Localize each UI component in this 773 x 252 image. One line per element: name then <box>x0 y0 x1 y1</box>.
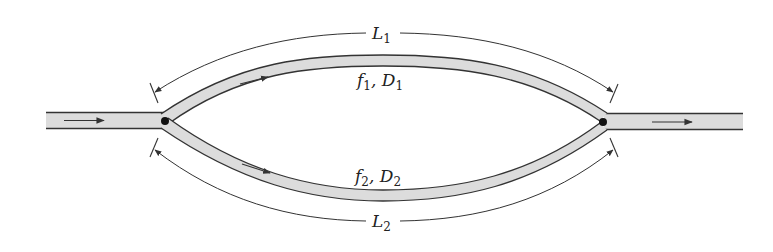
label-L1: L1 <box>371 23 391 46</box>
junction-right <box>599 118 607 126</box>
outlet-pipe <box>604 113 743 130</box>
inlet-pipe <box>46 112 164 129</box>
parallel-pipe-diagram: L1 L2 f1, D1 f2, D2 <box>0 0 773 252</box>
junction-left <box>161 117 169 125</box>
label-f2-D2: f2, D2 <box>353 166 401 189</box>
branch-2-lower <box>161 118 607 201</box>
label-L2: L2 <box>371 211 391 234</box>
label-f1-D1: f1, D1 <box>355 70 403 93</box>
